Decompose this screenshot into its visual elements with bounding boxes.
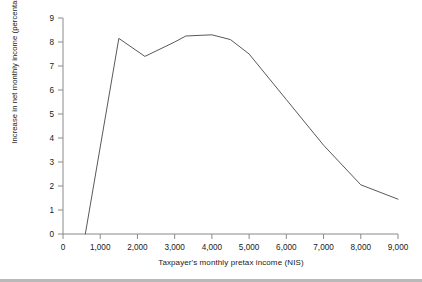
y-axis: 0123456789 xyxy=(49,14,63,239)
y-axis-title: Increase in net monthly income (percenta… xyxy=(10,0,19,167)
y-tick-label: 9 xyxy=(49,14,54,23)
y-tick-label: 2 xyxy=(49,182,54,191)
x-tick-label: 3,000 xyxy=(164,243,185,252)
x-tick-label: 8,000 xyxy=(351,243,372,252)
y-tick-label: 8 xyxy=(49,38,54,47)
y-tick-label: 7 xyxy=(49,62,54,71)
chart-figure: Increase in net monthly income (percenta… xyxy=(0,0,422,282)
x-axis: 01,0002,0003,0004,0005,0006,0007,0008,00… xyxy=(61,234,409,252)
y-tick-label: 1 xyxy=(49,206,54,215)
y-tick-label: 6 xyxy=(49,86,54,95)
x-tick-label: 4,000 xyxy=(202,243,223,252)
x-tick-label: 2,000 xyxy=(127,243,148,252)
x-tick-label: 9,000 xyxy=(388,243,409,252)
x-tick-label: 5,000 xyxy=(239,243,260,252)
y-tick-label: 0 xyxy=(49,230,54,239)
x-tick-label: 1,000 xyxy=(90,243,111,252)
series-line xyxy=(85,35,398,234)
series-group xyxy=(85,35,398,234)
y-tick-label: 3 xyxy=(49,158,54,167)
x-axis-title: Taxpayer's monthly pretax income (NIS) xyxy=(63,258,399,267)
x-tick-label: 7,000 xyxy=(313,243,334,252)
x-tick-label: 0 xyxy=(61,243,66,252)
line-chart-plot: 0123456789 01,0002,0003,0004,0005,0006,0… xyxy=(0,0,422,282)
y-tick-label: 4 xyxy=(49,134,54,143)
x-tick-label: 6,000 xyxy=(276,243,297,252)
y-tick-label: 5 xyxy=(49,110,54,119)
